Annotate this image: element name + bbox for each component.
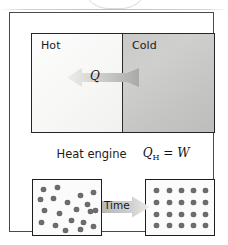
particle-dot [69, 218, 74, 223]
particle-dot [191, 188, 196, 193]
ordered-particles-box [145, 179, 215, 236]
formula-equals: = [159, 146, 177, 160]
particle-dot [167, 223, 172, 228]
particle-dot [42, 208, 47, 213]
particle-dot [41, 187, 46, 192]
particle-dot [91, 224, 96, 229]
particle-dot [78, 193, 83, 198]
particle-dot [51, 196, 56, 201]
chevron-down-icon [86, 0, 144, 9]
particle-dot [191, 200, 196, 205]
particle-dot [154, 188, 159, 193]
particle-dot [167, 212, 172, 217]
particle-dot [38, 197, 43, 202]
particle-dot [55, 185, 60, 190]
particle-dot [78, 227, 83, 232]
hot-label: Hot [41, 39, 61, 52]
particle-dot [85, 202, 90, 207]
particle-dot [191, 223, 196, 228]
particle-dot [179, 212, 184, 217]
particle-dot [57, 211, 62, 216]
particle-dot [81, 220, 86, 225]
particle-dot [167, 188, 172, 193]
particle-dot [154, 200, 159, 205]
particle-dot [203, 188, 208, 193]
cold-label: Cold [132, 39, 157, 52]
particle-dot [91, 190, 96, 195]
particle-dot [65, 200, 70, 205]
particle-dot [39, 220, 44, 225]
particle-dot [179, 223, 184, 228]
formula-w: W [177, 146, 189, 160]
particle-dot [179, 188, 184, 193]
particle-dot [63, 228, 68, 233]
particle-dot [74, 207, 79, 212]
heat-symbol-label: Q [90, 69, 100, 83]
heat-flow-arrow-icon [67, 67, 139, 88]
particle-dot [154, 212, 159, 217]
caption-formula: QH = W [143, 146, 190, 162]
particle-dot [191, 212, 196, 217]
disordered-particles-box [32, 179, 102, 236]
caption-row: Heat engine QH = W [31, 144, 215, 164]
formula-q: Q [143, 146, 153, 160]
figure-frame: Hot Cold Q Heat engine QH = W [9, 12, 214, 232]
particle-dot [179, 200, 184, 205]
time-label: Time [104, 199, 130, 211]
particle-dot [203, 200, 208, 205]
particle-dot [154, 223, 159, 228]
caption-text: Heat engine [56, 147, 126, 161]
particle-dot [167, 200, 172, 205]
particle-dot [53, 223, 58, 228]
particle-dot [203, 223, 208, 228]
particle-dot [203, 212, 208, 217]
page-rule-divider [0, 9, 228, 10]
particle-dot [93, 208, 98, 213]
